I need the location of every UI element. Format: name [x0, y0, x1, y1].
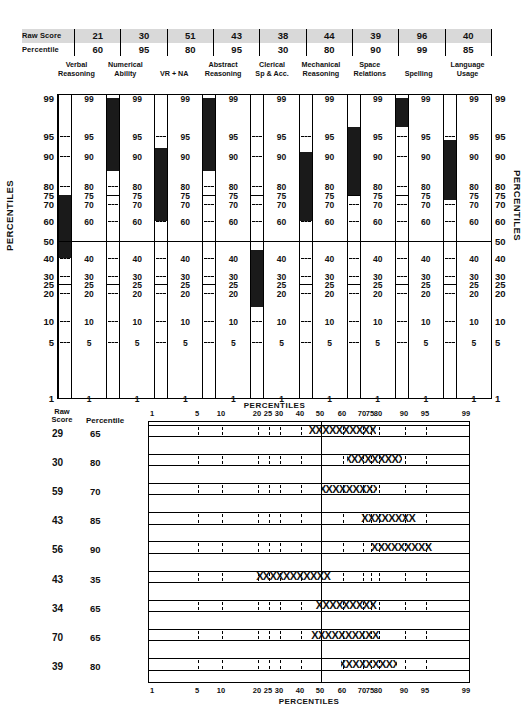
bottom-axis-tick-95: 95: [421, 686, 429, 695]
axis-tick-70: 70: [20, 199, 54, 210]
row-tick-90: [405, 573, 406, 582]
profile-scale-label-95: 95: [264, 132, 298, 142]
bar-dash-80: [108, 186, 118, 187]
raw-score-label: Raw Score: [22, 29, 74, 43]
row-tick-40: [301, 602, 302, 611]
bottom-axis-tick-99: 99: [462, 686, 470, 695]
bar-dash-20: [204, 293, 214, 294]
bar-dash-30: [445, 276, 455, 277]
profile-scale-labels-2: 99959080757060403025201051: [120, 95, 154, 398]
bottom-raw-score: 43: [52, 574, 63, 585]
row-tick-5: [198, 631, 199, 640]
row-tick-30: [280, 543, 281, 552]
profile-scale-label-90: 90: [409, 152, 443, 162]
score-header-columns: 216030955180439538304480399096994085: [74, 29, 492, 56]
bar-dash-60: [156, 221, 166, 222]
profile-scale-label-60: 60: [457, 217, 491, 227]
row-tick-95: [426, 660, 427, 669]
row-tick-10: [222, 427, 223, 436]
bar-dash-10: [60, 321, 70, 322]
profile-scale-label-95: 95: [361, 132, 395, 142]
profile-scale-label-10: 10: [409, 317, 443, 327]
bar-dash-20: [156, 293, 166, 294]
bottom-row-label-3: 5970: [46, 486, 122, 498]
bar-dash-10: [156, 321, 166, 322]
bottom-raw-score: 29: [52, 428, 63, 439]
bar-dash-20: [349, 293, 359, 294]
percentile-value: 95: [214, 43, 259, 57]
percentile-value: 80: [168, 43, 213, 57]
profile-scale-labels-7: 99959080757060403025201051: [361, 95, 395, 398]
row-tick-90: [405, 485, 406, 494]
score-column-5: 3830: [259, 29, 305, 56]
profile-scale-label-40: 40: [168, 254, 202, 264]
bottom-axis-tick-80: 80: [374, 686, 382, 695]
percentile-band-row-1: XXXXXXXXXX: [149, 425, 469, 438]
percentile-band-row-6: XXXXXXXXXXX: [149, 571, 469, 584]
profile-scale-label-10: 10: [168, 317, 202, 327]
test-name-9: LanguageUsage: [443, 60, 492, 82]
row-tick-25: [269, 660, 270, 669]
test-name-line2: Reasoning: [205, 69, 242, 78]
bar-dash-10: [204, 321, 214, 322]
raw-score-value: 96: [399, 29, 444, 43]
percentile-band-row-2: XXXXXXXXX: [149, 454, 469, 467]
row-tick-80: [379, 573, 380, 582]
bottom-axis-tick-60: 60: [338, 409, 346, 418]
profile-axis-title-right: PERCENTILES: [512, 170, 523, 241]
profile-scale-label-40: 40: [216, 254, 250, 264]
row-tick-30: [280, 456, 281, 465]
bottom-row-label-7: 3465: [46, 603, 122, 615]
axis-tick-1: 1: [495, 393, 529, 404]
bar-dash-30: [204, 276, 214, 277]
row-tick-30: [280, 485, 281, 494]
bar-dash-70: [397, 204, 407, 205]
bottom-axis-tick-99: 99: [462, 409, 470, 418]
x-mark-band-5: XXXXXXXXX: [366, 542, 436, 553]
bar-dash-80: [397, 186, 407, 187]
bar-dash-90: [252, 156, 262, 157]
test-name-8: Spelling: [394, 60, 443, 82]
axis-tick-95: 95: [495, 131, 529, 142]
row-tick-30: [280, 631, 281, 640]
row-tick-80: [379, 485, 380, 494]
axis-tick-60: 60: [20, 216, 54, 227]
bar-dash-5: [60, 342, 70, 343]
row-tick-40: [301, 514, 302, 523]
percentile-value: 99: [399, 43, 444, 57]
profile-scale-label-20: 20: [409, 289, 443, 299]
row-tick-10: [222, 543, 223, 552]
score-column-3: 5180: [167, 29, 213, 56]
profile-bar-6: [299, 95, 313, 398]
test-name-line1: Mechanical: [302, 60, 341, 69]
profile-scale-label-10: 10: [457, 317, 491, 327]
profile-scale-label-60: 60: [168, 217, 202, 227]
row-tick-20: [258, 485, 259, 494]
bottom-percentile: 65: [90, 632, 101, 643]
profile-scale-label-10: 10: [313, 317, 347, 327]
axis-tick-50: 50: [20, 236, 54, 247]
profile-scale-label-40: 40: [120, 254, 154, 264]
row-tick-5: [198, 602, 199, 611]
profile-scale-label-70: 70: [361, 200, 395, 210]
test-name-line1: Spelling: [405, 69, 433, 78]
row-tick-5: [198, 660, 199, 669]
bottom-axis-tick-30: 30: [275, 686, 283, 695]
percentile-label: Percentile: [22, 43, 74, 57]
score-header-row-labels: Raw Score Percentile: [22, 29, 74, 56]
profile-bar-5: [250, 95, 264, 398]
bar-dash-30: [301, 276, 311, 277]
percentile-band-row-8: XXXXXXXXXX: [149, 629, 469, 642]
row-tick-70: [363, 543, 364, 552]
axis-tick-90: 90: [495, 151, 529, 162]
bottom-axis-tick-25: 25: [264, 686, 272, 695]
bottom-axis-tick-40: 40: [296, 686, 304, 695]
profile-scale-label-20: 20: [361, 289, 395, 299]
bottom-axis-top: 1510202530405060707580909599: [148, 409, 470, 420]
bottom-percentile-header: Percentile: [86, 416, 124, 425]
bottom-axis-tick-80: 80: [374, 409, 382, 418]
bottom-axis-tick-1: 1: [150, 409, 154, 418]
percentile-value: 90: [353, 43, 398, 57]
row-tick-80: [379, 631, 380, 640]
profile-scale-label-20: 20: [168, 289, 202, 299]
